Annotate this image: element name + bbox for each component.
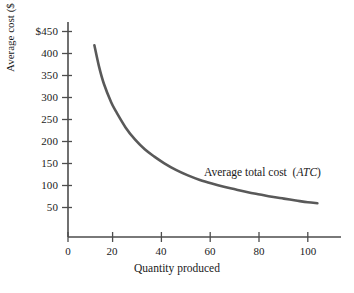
curve-annotation-text: Average total cost xyxy=(204,166,287,178)
y-tick-label-100: 100 xyxy=(0,180,58,191)
curve-annotation-abbrev: ATC xyxy=(296,166,317,178)
x-tick-label-60: 60 xyxy=(196,246,224,257)
curve-annotation-paren-close: ) xyxy=(317,166,321,178)
y-axis-ticks xyxy=(62,32,72,208)
y-axis-title: Average cost ($ million) xyxy=(4,0,16,72)
average-total-cost-curve xyxy=(94,45,317,203)
average-total-cost-chart: $450 400 350 300 250 200 150 100 50 0 20… xyxy=(0,0,354,293)
y-tick-label-150: 150 xyxy=(0,158,58,169)
x-axis-title: Quantity produced xyxy=(0,262,354,275)
x-tick-label-20: 20 xyxy=(98,246,126,257)
curve-annotation-label: Average total cost (ATC) xyxy=(204,166,321,179)
x-tick-label-0: 0 xyxy=(54,246,82,257)
y-tick-label-300: 300 xyxy=(0,92,58,103)
x-tick-label-80: 80 xyxy=(245,246,273,257)
y-tick-label-200: 200 xyxy=(0,136,58,147)
y-tick-label-50: 50 xyxy=(0,202,58,213)
x-tick-label-100: 100 xyxy=(294,246,322,257)
x-tick-label-40: 40 xyxy=(147,246,175,257)
y-tick-label-250: 250 xyxy=(0,114,58,125)
